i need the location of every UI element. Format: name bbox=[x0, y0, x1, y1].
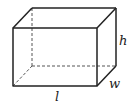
front-face bbox=[13, 28, 97, 86]
length-label: l bbox=[55, 89, 59, 104]
rectangular-prism-diagram: h w l bbox=[0, 0, 132, 104]
hidden-edges bbox=[13, 8, 116, 86]
visible-edges bbox=[13, 8, 116, 86]
height-label: h bbox=[119, 33, 127, 48]
top-left-depth-edge bbox=[13, 8, 32, 28]
width-label: w bbox=[109, 76, 120, 91]
hidden-bottom-left-depth-edge bbox=[13, 66, 32, 86]
top-right-depth-edge bbox=[97, 8, 116, 28]
